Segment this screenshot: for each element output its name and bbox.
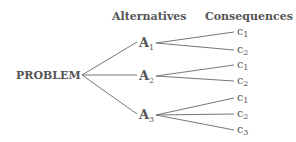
consequence-a1-c1: c1 xyxy=(237,25,248,39)
consequence-a2-c2: c2 xyxy=(237,74,248,88)
alternative-a2: A2 xyxy=(138,68,154,85)
alt-subscript: 3 xyxy=(149,115,154,124)
consequence-a3-c2: c2 xyxy=(237,107,248,121)
consequence-branches xyxy=(156,32,234,130)
decision-tree-diagram: Alternatives Consequences PROBLEM A1 A2 … xyxy=(0,0,296,142)
alternative-a3: A3 xyxy=(138,107,154,124)
alternatives-header: Alternatives xyxy=(111,10,187,23)
svg-text:A2: A2 xyxy=(138,68,154,85)
alt-subscript: 1 xyxy=(149,43,154,52)
svg-text:A3: A3 xyxy=(138,107,154,124)
root-branches xyxy=(82,42,137,114)
consequence-a3-c1: c1 xyxy=(237,91,248,105)
alternative-a1: A1 xyxy=(138,35,154,52)
consequence-a3-c3: c3 xyxy=(237,123,248,137)
consequences-header: Consequences xyxy=(205,10,293,23)
consequence-a1-c2: c2 xyxy=(237,43,248,57)
problem-node: PROBLEM xyxy=(16,69,81,82)
consequence-a2-c1: c1 xyxy=(237,58,248,72)
svg-text:A1: A1 xyxy=(138,35,154,52)
alt-subscript: 2 xyxy=(149,76,154,85)
